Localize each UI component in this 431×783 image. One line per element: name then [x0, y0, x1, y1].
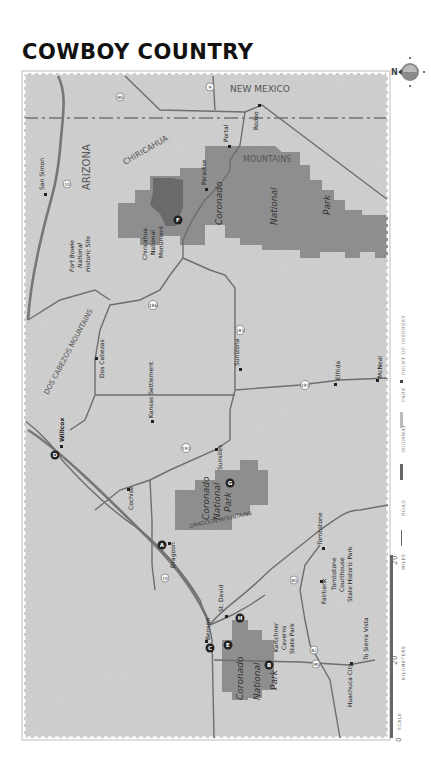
- park-coronado-dragoon-3: Park: [223, 491, 233, 512]
- town-elfrida: Elfrida: [334, 360, 341, 380]
- svg-text:A: A: [160, 542, 165, 548]
- park-coronado-south-1: Coronado: [235, 656, 245, 700]
- legend: 0 SCALE 20 KILOMETERS 20 MILES ROAD HIGH…: [390, 315, 406, 742]
- park-chiricahua-nm-1: Chiricahua: [141, 228, 148, 260]
- map[interactable]: NEW MEXICO ARIZONA CHIRICAHUA MOUNTAINS …: [0, 0, 431, 783]
- marker-a: A: [158, 541, 167, 550]
- shield-sr82: 82: [310, 646, 318, 654]
- svg-text:186: 186: [149, 303, 158, 308]
- km-value: 20: [391, 655, 399, 665]
- town-portal: Portal: [222, 124, 229, 142]
- park-coronado-dragoon-1: Coronado: [201, 476, 211, 520]
- town-mcneal: McNeal: [376, 356, 383, 378]
- label-new-mexico: NEW MEXICO: [230, 84, 290, 94]
- town-st-david: St. David: [217, 585, 224, 612]
- town-sunizona: Sunizona: [233, 338, 240, 366]
- svg-text:9: 9: [209, 85, 212, 90]
- svg-text:181: 181: [236, 328, 245, 333]
- svg-text:F: F: [176, 217, 180, 223]
- shield-sr9: 9: [206, 83, 214, 91]
- park-fort-bowie-1: Fort Bowie: [68, 240, 75, 272]
- marker-g: G: [226, 479, 235, 488]
- town-fairbank: Fairbank: [320, 578, 327, 604]
- park-fort-bowie-3: Historic Site: [84, 236, 91, 272]
- town-kansas-settlement: Kansas Settlement: [147, 361, 154, 418]
- legend-park-swatch: [400, 412, 403, 428]
- svg-text:82: 82: [311, 648, 317, 653]
- legend-poi-swatch: [400, 380, 403, 383]
- svg-text:10: 10: [64, 182, 70, 187]
- svg-text:191: 191: [182, 446, 191, 451]
- legend-poi: POINT OF INTEREST: [401, 315, 406, 375]
- marker-h: H: [236, 614, 245, 623]
- park-tombstone-courthouse-3: State Historic Park: [346, 546, 353, 602]
- compass-rose: N: [391, 57, 425, 87]
- park-coronado-south-3: Park: [269, 669, 279, 690]
- mi-value: 20: [391, 555, 399, 565]
- park-coronado-south-2: National: [252, 662, 262, 700]
- town-paradise: Paradise: [200, 159, 207, 185]
- town-san-simon: San Simon: [38, 158, 45, 190]
- park-kartchner-3: State Park: [288, 623, 295, 654]
- label-mountains: MOUNTAINS: [243, 155, 291, 164]
- compass-north-label: N: [391, 68, 398, 77]
- marker-c: C: [206, 644, 215, 653]
- marker-e: E: [224, 641, 233, 650]
- svg-text:G: G: [228, 480, 233, 486]
- marker-f: F: [174, 216, 183, 225]
- svg-text:80: 80: [117, 95, 123, 100]
- svg-text:C: C: [208, 645, 212, 651]
- svg-text:10: 10: [162, 576, 168, 581]
- park-coronado-east-2: National: [269, 187, 279, 225]
- town-huachuca-city: Huachuca City: [346, 663, 354, 707]
- park-kartchner-1: Kartchner: [272, 622, 279, 652]
- town-dos-cabezas: Dos Cabezas: [98, 339, 105, 378]
- town-willcox: Willcox: [58, 418, 65, 442]
- shield-sr80-a: 80: [116, 93, 124, 101]
- scale-bar: [390, 555, 393, 738]
- svg-text:191: 191: [301, 383, 310, 388]
- town-dragoon: Dragoon: [169, 542, 177, 568]
- mi-label: MILES: [401, 554, 406, 570]
- marker-b: B: [265, 661, 274, 670]
- town-tombstone: Tombstone: [316, 512, 323, 546]
- park-chiricahua-nm-2: National: [149, 230, 156, 255]
- shield-us191-b: 191: [301, 381, 310, 390]
- park-tombstone-courthouse-1: Tombstone: [330, 557, 337, 591]
- park-tombstone-courthouse-2: Courthouse: [338, 557, 345, 592]
- shield-sr181: 181: [236, 326, 245, 335]
- svg-text:90: 90: [313, 662, 319, 667]
- legend-highway-swatch: [400, 464, 403, 480]
- town-sunsites: Sunsites: [216, 445, 223, 470]
- legend-road: ROAD: [401, 500, 406, 516]
- svg-text:D: D: [53, 452, 58, 458]
- park-coronado-dragoon-2: National: [212, 482, 222, 520]
- shield-us191-a: 191: [182, 444, 191, 453]
- park-coronado-east-3: Park: [322, 194, 332, 215]
- park-chiricahua-nm-3: Monument: [157, 225, 164, 258]
- scale-text: SCALE: [397, 713, 402, 730]
- shield-i10-b: 10: [161, 574, 169, 582]
- town-rodeo: Rodeo: [252, 111, 259, 130]
- shield-sr80-b: 80: [290, 576, 298, 584]
- park-coronado-east-1: Coronado: [214, 181, 224, 225]
- svg-text:80: 80: [291, 578, 297, 583]
- town-cochise: Cochise: [127, 486, 134, 510]
- svg-text:H: H: [238, 615, 243, 621]
- svg-text:E: E: [226, 642, 230, 648]
- marker-d: D: [51, 451, 60, 460]
- shield-sr90: 90: [312, 660, 320, 668]
- town-benson: Benson: [204, 618, 211, 640]
- park-kartchner-2: Caverns: [280, 626, 287, 650]
- park-fort-bowie-2: National: [76, 243, 83, 268]
- scale-label: 0: [395, 737, 403, 742]
- shield-sr186: 186: [149, 301, 158, 310]
- svg-text:B: B: [267, 662, 271, 668]
- label-arizona: ARIZONA: [81, 144, 92, 190]
- legend-road-swatch: [401, 530, 402, 546]
- shield-i10-a: 10: [63, 180, 71, 188]
- km-label: KILOMETERS: [401, 646, 406, 680]
- legend-park: PARK: [401, 387, 406, 402]
- to-sierra-vista: To Sierra Vista: [362, 617, 369, 661]
